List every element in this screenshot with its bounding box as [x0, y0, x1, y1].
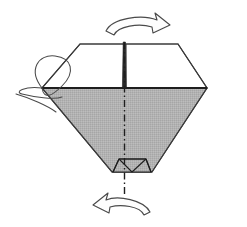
origami-diagram-container: Origami folding step diagram Diamond / h… — [0, 0, 247, 227]
origami-figure — [0, 0, 247, 227]
